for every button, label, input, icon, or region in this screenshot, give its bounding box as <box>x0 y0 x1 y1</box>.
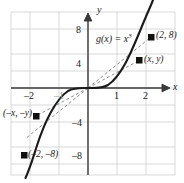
x-tick-neg2: –2 <box>24 91 34 101</box>
y-tick-8: 8 <box>76 25 81 35</box>
marker-point-negx-negy <box>33 113 40 120</box>
function-label: g(x) = x3 <box>96 33 132 44</box>
function-label-text: g(x) = x <box>96 33 128 44</box>
function-exponent: 3 <box>128 32 132 40</box>
y-tick-neg4: –4 <box>72 118 82 128</box>
x-axis-label: x <box>173 82 177 92</box>
y-axis-label: y <box>97 5 101 15</box>
secant-to-point-x-y <box>88 60 140 88</box>
x-tick-2: 2 <box>143 91 148 101</box>
x-axis-arrow <box>162 84 170 92</box>
y-tick-4: 4 <box>76 59 81 69</box>
x-tick-neg1: –1 <box>54 91 64 101</box>
marker-point-neg2-neg8 <box>21 152 28 159</box>
label-point-2-8: (2, 8) <box>156 31 177 41</box>
x-tick-1: 1 <box>114 91 119 101</box>
y-tick-neg8: –8 <box>72 151 82 161</box>
label-point-x-y: (x, y) <box>144 55 164 65</box>
y-axis-arrow <box>84 13 92 21</box>
marker-point-x-y <box>136 57 143 64</box>
cubic-function-graph: y x 8 4 –4 –8 –2 –1 1 2 g(x) = x3 (2, 8)… <box>0 0 184 183</box>
label-point-neg2-neg8: (–2, –8) <box>28 150 58 160</box>
label-point-negx-negy: (–x, –y) <box>3 109 32 119</box>
marker-point-2-8 <box>148 34 155 41</box>
